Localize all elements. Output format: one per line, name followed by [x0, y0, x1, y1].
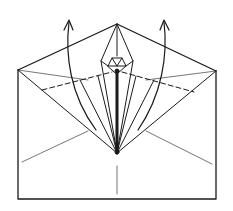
center-point: [115, 150, 119, 154]
origami-diagram: [0, 0, 233, 211]
center-top-point: [115, 69, 119, 73]
